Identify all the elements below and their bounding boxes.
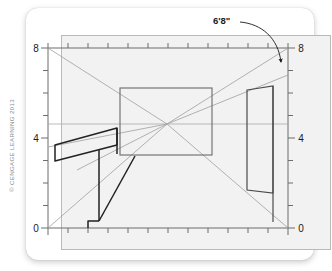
- figure-root: © CENGAGE LEARNING 2013: [0, 0, 332, 271]
- figure-card: [26, 8, 314, 260]
- plot-panel: [61, 35, 331, 250]
- copyright-notice: © CENGAGE LEARNING 2013: [8, 91, 15, 201]
